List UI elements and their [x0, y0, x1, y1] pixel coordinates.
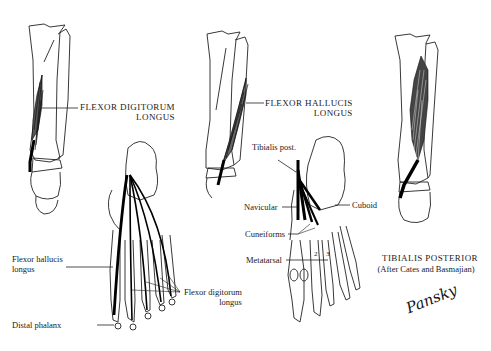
- foot-bones-fdl: [108, 141, 176, 330]
- leg-bones-fhl: [206, 31, 248, 198]
- title-line-1: FLEXOR DIGITORUM: [80, 102, 175, 112]
- label-cuboid: Cuboid: [352, 200, 377, 210]
- label-tibialis-posterior: TIBIALIS POSTERIOR: [370, 253, 490, 263]
- label-flexor-hallucis-longus: FLEXOR HALLUCIS LONGUS: [265, 98, 353, 118]
- title-line-2: LONGUS: [80, 112, 175, 122]
- label-attribution: (After Cates and Basmajian): [362, 264, 490, 274]
- label-tibialis-post: Tibialis post.: [252, 142, 296, 152]
- fdl-line-1: Flexor digitorum: [184, 287, 242, 297]
- label-distal-phalanx: Distal phalanx: [12, 320, 61, 330]
- muscle-fhl: [222, 78, 248, 165]
- tendons-tp: [298, 160, 320, 225]
- label-flexor-digitorum-longus-foot: Flexor digitorum longus: [184, 287, 242, 307]
- label-flexor-digitorum-longus: FLEXOR DIGITORUM LONGUS: [80, 102, 175, 122]
- fdl-line-2: longus: [184, 297, 242, 307]
- fhl-line-1: Flexor hallucis: [12, 254, 63, 264]
- label-metatarsal-2: 2: [314, 249, 318, 259]
- label-metatarsal-3: 3: [326, 249, 330, 259]
- title-line-1: FLEXOR HALLUCIS: [265, 98, 353, 108]
- label-cuneiforms: Cuneiforms: [245, 229, 285, 239]
- label-flexor-hallucis-longus-foot: Flexor hallucis longus: [12, 254, 63, 274]
- muscle-tp: [410, 56, 428, 160]
- label-metatarsal: Metatarsal: [246, 255, 282, 265]
- title-line-2: LONGUS: [265, 108, 353, 118]
- tendons-fdl: [114, 175, 171, 320]
- fhl-line-2: longus: [12, 264, 63, 274]
- label-navicular: Navicular: [244, 202, 278, 212]
